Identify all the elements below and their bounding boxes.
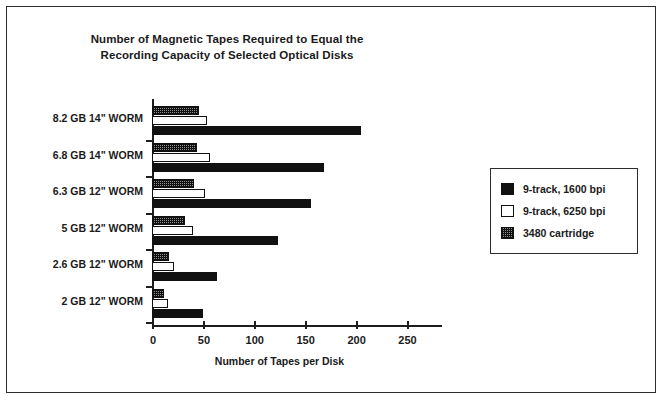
x-axis-tick <box>152 321 154 329</box>
bar <box>152 289 164 298</box>
bar <box>152 252 169 261</box>
bar <box>152 262 174 271</box>
bar <box>152 216 185 225</box>
bar <box>152 126 361 135</box>
bar <box>152 199 311 208</box>
bar-group <box>152 250 407 287</box>
x-axis-tick-label: 150 <box>286 334 326 346</box>
bar-group <box>152 177 407 214</box>
bar <box>152 163 324 172</box>
y-axis-tick <box>146 140 153 142</box>
y-axis-label: 8.2 GB 14" WORM <box>7 112 143 124</box>
bar-group <box>152 141 407 178</box>
bar-group <box>152 104 407 141</box>
bar <box>152 226 193 235</box>
y-axis-label: 2 GB 12" WORM <box>7 295 143 307</box>
y-axis-tick <box>146 249 153 251</box>
x-axis-tick <box>203 321 205 329</box>
x-axis-tick <box>305 321 307 329</box>
x-axis-line <box>152 325 442 327</box>
legend-label: 9-track, 6250 bpi <box>523 205 605 217</box>
chart-title-line-2: Recording Capacity of Selected Optical D… <box>7 47 447 63</box>
x-axis-tick-label: 250 <box>388 334 428 346</box>
bar-group <box>152 214 407 251</box>
bar <box>152 189 205 198</box>
chart-legend: 9-track, 1600 bpi9-track, 6250 bpi3480 c… <box>490 168 638 254</box>
legend-swatch-icon <box>501 227 514 239</box>
x-axis-tick <box>407 321 409 329</box>
x-axis-tick-label: 100 <box>235 334 275 346</box>
legend-swatch-icon <box>501 205 514 217</box>
bar <box>152 153 210 162</box>
legend-item: 9-track, 1600 bpi <box>501 178 629 200</box>
bar <box>152 299 168 308</box>
chart-frame: Number of Magnetic Tapes Required to Equ… <box>6 6 656 393</box>
y-axis-label: 6.8 GB 14" WORM <box>7 149 143 161</box>
legend-item: 3480 cartridge <box>501 222 629 244</box>
bar <box>152 106 199 115</box>
x-axis-tick-label: 200 <box>337 334 377 346</box>
bar <box>152 143 197 152</box>
x-axis-title: Number of Tapes per Disk <box>152 355 407 367</box>
bar <box>152 179 194 188</box>
y-axis-tick <box>146 213 153 215</box>
legend-label: 3480 cartridge <box>523 227 594 239</box>
bar <box>152 309 203 318</box>
y-axis-tick <box>146 286 153 288</box>
legend-swatch-icon <box>501 183 514 195</box>
y-axis-label: 5 GB 12" WORM <box>7 222 143 234</box>
x-axis-tick-label: 0 <box>133 334 173 346</box>
bar <box>152 272 217 281</box>
bar-group <box>152 287 407 324</box>
x-axis-tick <box>254 321 256 329</box>
plot-area <box>152 104 407 323</box>
chart-title-line-1: Number of Magnetic Tapes Required to Equ… <box>7 31 447 47</box>
legend-label: 9-track, 1600 bpi <box>523 183 605 195</box>
chart-title: Number of Magnetic Tapes Required to Equ… <box>7 31 447 63</box>
bar <box>152 236 278 245</box>
x-axis-tick <box>356 321 358 329</box>
y-axis-tick <box>146 176 153 178</box>
y-axis-label: 6.3 GB 12" WORM <box>7 185 143 197</box>
x-axis-tick-label: 50 <box>184 334 224 346</box>
y-axis-label: 2.6 GB 12" WORM <box>7 258 143 270</box>
legend-item: 9-track, 6250 bpi <box>501 200 629 222</box>
bar <box>152 116 207 125</box>
